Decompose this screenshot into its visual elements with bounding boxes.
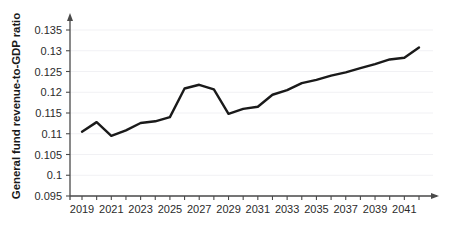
x-axis-tick-label: 2025 [158, 203, 182, 215]
x-axis-tick-label: 2029 [216, 203, 240, 215]
x-axis-tick-label: 2023 [128, 203, 152, 215]
x-axis-tick-label: 2037 [333, 203, 357, 215]
gridlines [70, 30, 433, 196]
x-axis-tick-label: 2035 [304, 203, 328, 215]
x-axis-tick-label: 2019 [70, 203, 94, 215]
data-series-line [82, 47, 419, 135]
x-axis-tick-label: 2027 [187, 203, 211, 215]
x-axis-arrow-icon [431, 193, 439, 199]
line-chart-plot [0, 0, 454, 229]
x-axis-tick-label: 2039 [363, 203, 387, 215]
chart-container: 0.0950.10.1050.110.1150.120.1250.130.135… [0, 0, 454, 229]
x-axis-tick-label: 2033 [275, 203, 299, 215]
x-axis-tick-label: 2021 [99, 203, 123, 215]
y-axis-arrow-icon [67, 13, 73, 21]
x-axis-tick-label: 2031 [246, 203, 270, 215]
x-axis-tick-label: 2041 [392, 203, 416, 215]
